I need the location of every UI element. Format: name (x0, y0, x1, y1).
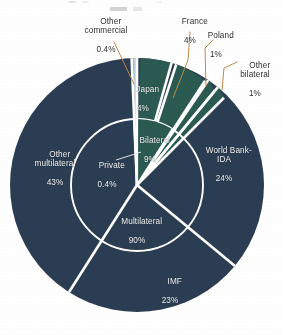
label-private-name: Private (99, 161, 125, 170)
label-bilateral: Bilateral 9% (124, 127, 176, 182)
label-private-value: 0.4% (83, 180, 131, 189)
label-japan-name: Japan (136, 85, 159, 94)
label-world-bank-ida-name: World Bank- IDA (206, 146, 252, 164)
label-imf-value: 23% (149, 296, 191, 305)
label-japan: Japan 4% (122, 76, 164, 131)
label-multilateral-name: Multilateral (121, 217, 162, 226)
label-multilateral: Multilateral 90% (99, 208, 175, 263)
label-multilateral-value: 90% (99, 236, 175, 245)
label-other-bilateral: Other bilateral 1% (229, 52, 281, 116)
label-japan-value: 4% (122, 104, 164, 113)
label-poland-name: Poland (208, 31, 234, 40)
label-other-multilateral: Other multilateral 43% (19, 141, 91, 205)
label-bilateral-name: Bilateral (140, 136, 170, 145)
label-other-commercial: Other commercial 0.4% (64, 8, 148, 72)
label-imf: IMF 23% (149, 268, 191, 323)
chart-canvas: Other commercial 0.4% France 4% Poland 1… (0, 0, 283, 335)
label-world-bank-ida: World Bank- IDA 24% (188, 137, 260, 201)
label-other-bilateral-name: Other bilateral (240, 61, 270, 79)
label-other-multilateral-name: Other multilateral (35, 150, 76, 168)
label-other-bilateral-value: 1% (229, 89, 281, 98)
label-other-commercial-value: 0.4% (64, 45, 148, 54)
label-bilateral-value: 9% (124, 155, 176, 164)
label-private: Private 0.4% (83, 152, 131, 207)
label-imf-name: IMF (168, 277, 182, 286)
label-other-commercial-name: Other commercial (85, 17, 128, 35)
label-world-bank-ida-value: 24% (188, 174, 260, 183)
label-other-multilateral-value: 43% (19, 178, 91, 187)
